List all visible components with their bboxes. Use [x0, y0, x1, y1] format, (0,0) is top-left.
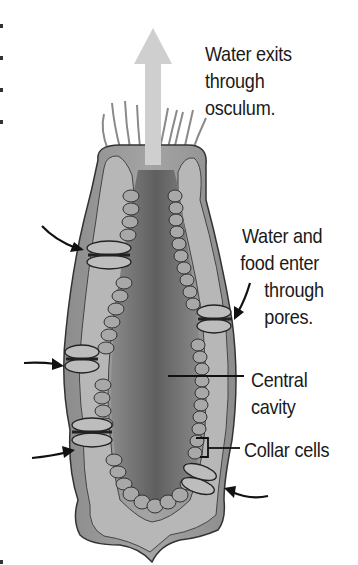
- label-collar-cells: Collar cells: [244, 436, 329, 463]
- cropped-text-fragment: [0, 88, 3, 92]
- label-water-exits: Water exits through osculum.: [205, 40, 292, 121]
- cropped-text-fragment: [0, 56, 3, 60]
- label-water-enters: Water and food enter through pores.: [242, 222, 324, 330]
- label-central-cavity: Central cavity: [251, 366, 307, 420]
- cropped-text-fragment: [0, 120, 3, 124]
- cropped-text-fragment: [0, 560, 3, 564]
- cropped-text-fragment: [0, 24, 3, 28]
